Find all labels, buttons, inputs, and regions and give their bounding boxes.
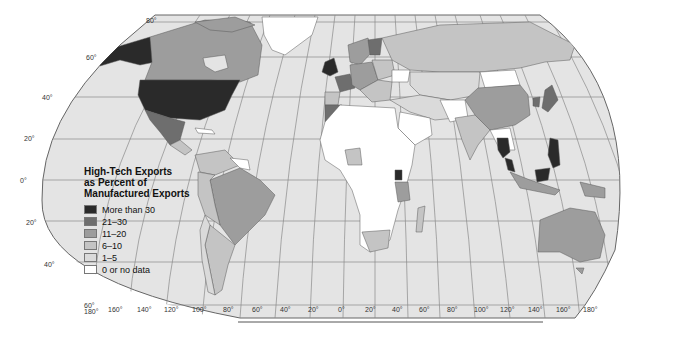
- region-borneo[interactable]: [535, 168, 550, 182]
- region-finland[interactable]: [368, 38, 382, 55]
- svg-text:60°: 60°: [419, 306, 430, 313]
- svg-text:20°: 20°: [24, 135, 35, 142]
- legend-label: 1–5: [102, 253, 117, 263]
- svg-text:160°: 160°: [556, 306, 571, 313]
- region-ukraine[interactable]: [392, 70, 410, 82]
- svg-text:20°: 20°: [26, 219, 37, 226]
- legend-item-1-5: 1–5: [84, 252, 224, 263]
- svg-text:40°: 40°: [42, 94, 53, 101]
- svg-text:160°: 160°: [108, 306, 123, 313]
- legend-title-line-1: High-Tech Exports: [84, 166, 224, 177]
- svg-text:20°: 20°: [308, 306, 319, 313]
- region-iberia[interactable]: [325, 92, 340, 105]
- legend-swatch: [84, 205, 97, 214]
- svg-text:140°: 140°: [528, 306, 543, 313]
- svg-text:60°: 60°: [86, 54, 97, 61]
- region-nigeria[interactable]: [345, 148, 362, 165]
- svg-text:80°: 80°: [146, 17, 157, 24]
- svg-text:120°: 120°: [500, 306, 515, 313]
- svg-text:100°: 100°: [474, 306, 489, 313]
- region-south-korea[interactable]: [533, 97, 540, 107]
- legend-title-line-3: Manufactured Exports: [84, 188, 224, 199]
- legend-swatch: [84, 253, 97, 262]
- legend-label: More than 30: [102, 205, 155, 215]
- legend-item-11-20: 11–20: [84, 228, 224, 239]
- legend-item-21-30: 21–30: [84, 216, 224, 227]
- region-uganda[interactable]: [395, 170, 402, 180]
- svg-text:140°: 140°: [137, 306, 152, 313]
- svg-text:60°: 60°: [252, 306, 263, 313]
- world-map: 80° 60° 40° 20° 0° 20° 40° 60° 180° 160°…: [0, 0, 677, 358]
- svg-text:180°: 180°: [84, 308, 99, 315]
- legend-swatch: [84, 217, 97, 226]
- svg-text:80°: 80°: [447, 306, 458, 313]
- svg-text:40°: 40°: [44, 261, 55, 268]
- legend-item-more-than-30: More than 30: [84, 204, 224, 215]
- legend-label: 21–30: [102, 217, 127, 227]
- svg-text:20°: 20°: [365, 306, 376, 313]
- legend-title-line-2: as Percent of: [84, 177, 224, 188]
- svg-text:40°: 40°: [280, 306, 291, 313]
- svg-text:100°: 100°: [192, 306, 207, 313]
- legend-title: High-Tech Exports as Percent of Manufact…: [84, 166, 224, 199]
- legend-label: 11–20: [102, 229, 126, 239]
- legend-item-no-data: 0 or no data: [84, 264, 224, 275]
- legend-label: 0 or no data: [102, 265, 150, 275]
- map-legend: High-Tech Exports as Percent of Manufact…: [84, 166, 224, 276]
- svg-text:180°: 180°: [583, 306, 598, 313]
- legend-item-6-10: 6–10: [84, 240, 224, 251]
- legend-label: 6–10: [102, 241, 122, 251]
- svg-text:80°: 80°: [223, 306, 234, 313]
- svg-text:0°: 0°: [338, 306, 345, 313]
- legend-swatch: [84, 229, 97, 238]
- svg-text:120°: 120°: [164, 306, 179, 313]
- svg-text:40°: 40°: [392, 306, 403, 313]
- legend-swatch: [84, 241, 97, 250]
- svg-text:0°: 0°: [20, 177, 27, 184]
- legend-swatch: [84, 265, 97, 274]
